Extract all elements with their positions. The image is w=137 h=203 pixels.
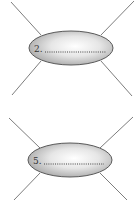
ellipse-figure-5: 5. <box>9 117 133 200</box>
ellipse-figure-2: 2. <box>11 1 134 96</box>
connector-line <box>101 1 134 35</box>
figure-number: 2. <box>34 44 43 54</box>
connector-line <box>14 173 40 200</box>
spider-diagram: 2. 5. <box>0 0 137 203</box>
connector-line <box>11 2 41 35</box>
connector-line <box>9 118 40 148</box>
connector-line <box>12 61 41 95</box>
connector-line <box>101 61 132 96</box>
connector-line <box>100 117 133 148</box>
connector-line <box>100 173 127 200</box>
figure-number: 5. <box>33 156 42 166</box>
